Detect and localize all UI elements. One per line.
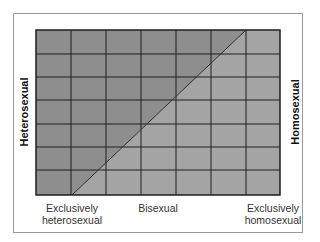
label-line-1: Exclusively — [20, 202, 124, 214]
exclusively-heterosexual-label: Exclusively heterosexual — [20, 202, 124, 226]
exclusively-homosexual-label: Exclusively homosexual — [240, 202, 306, 226]
homosexual-axis-label: Homosexual — [289, 79, 301, 144]
label-line-2: heterosexual — [20, 214, 124, 226]
heterosexual-axis-label: Heterosexual — [18, 77, 30, 146]
label-line-1: Exclusively — [240, 202, 306, 214]
bisexual-label: Bisexual — [128, 202, 188, 214]
label-line-2: homosexual — [240, 214, 306, 226]
